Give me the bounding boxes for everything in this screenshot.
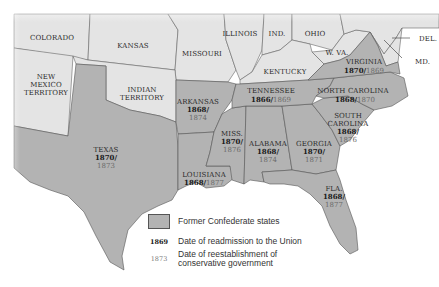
label-west-virginia: W. VA.: [326, 49, 349, 57]
label-illinois: ILLINOIS: [222, 30, 257, 38]
legend-swatch-confederate: [148, 214, 170, 229]
label-kansas: KANSAS: [117, 42, 148, 50]
label-maryland: MD.: [415, 58, 430, 66]
label-new-mexico-1: NEW: [37, 73, 56, 81]
label-colorado: COLORADO: [30, 34, 74, 42]
arkansas-conservative: 1874: [189, 114, 207, 122]
south-carolina-conservative: 1876: [339, 136, 357, 144]
label-indiana: IND.: [269, 30, 286, 38]
south-carolina-readmission: 1868/: [337, 127, 359, 136]
label-ohio: OHIO: [305, 30, 326, 38]
label-new-mexico-2: MEXICO: [30, 81, 62, 89]
label-virginia: VIRGINIA: [345, 58, 383, 66]
label-delaware: DEL.: [419, 35, 437, 43]
tennessee-dates: 1866/1869: [251, 95, 291, 104]
louisiana-dates: 1868/1877: [184, 178, 224, 187]
legend-readmission-sample: 1869: [148, 238, 170, 246]
label-missouri: MISSOURI: [182, 50, 222, 58]
alabama-readmission: 1868/: [257, 147, 279, 156]
label-south-carolina-1: SOUTH: [334, 112, 362, 120]
label-kentucky: KENTUCKY: [264, 68, 307, 76]
legend-confederate-label: Former Confederate states: [178, 217, 280, 226]
mississippi-conservative: 1876: [223, 146, 241, 154]
label-indian-territory-1: INDIAN: [127, 86, 156, 94]
legend-conservative: 1873 Date of reestablishment of conserva…: [148, 250, 277, 268]
texas-readmission: 1870/: [95, 153, 117, 162]
label-tennessee: TENNESSEE: [247, 87, 295, 95]
florida-readmission: 1868/: [323, 192, 345, 201]
georgia-readmission: 1870/: [303, 147, 325, 156]
label-new-mexico-3: TERRITORY: [24, 89, 68, 97]
label-indian-territory-2: TERRITORY: [120, 94, 164, 102]
virginia-dates: 1870/1869: [344, 66, 384, 75]
label-north-carolina: NORTH CAROLINA: [317, 87, 389, 95]
north-carolina-dates: 1868/1870: [335, 95, 375, 104]
legend-conservative-line-2: conservative government: [178, 259, 277, 268]
legend-readmission-label: Date of readmission to the Union: [178, 237, 302, 246]
texas-conservative: 1873: [97, 162, 115, 170]
legend-confederate: Former Confederate states: [148, 214, 280, 229]
arkansas-readmission: 1868/: [187, 105, 209, 114]
georgia-conservative: 1871: [305, 156, 323, 164]
legend-conservative-label: Date of reestablishment of conservative …: [178, 250, 277, 268]
mississippi-readmission: 1870/: [221, 137, 243, 146]
florida-conservative: 1877: [325, 201, 343, 209]
alabama-conservative: 1874: [259, 156, 277, 164]
legend-conservative-sample: 1873: [148, 255, 170, 263]
legend-readmission: 1869 Date of readmission to the Union: [148, 237, 302, 246]
